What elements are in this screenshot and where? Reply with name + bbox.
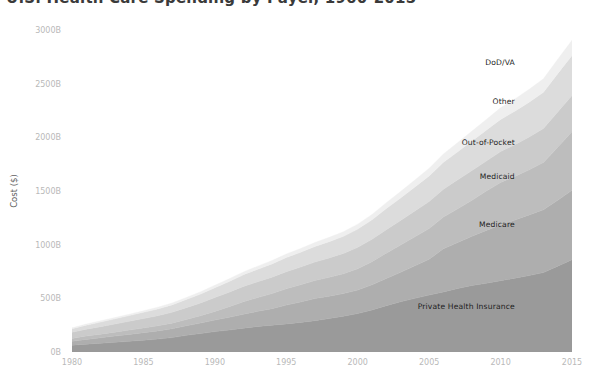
stacked-area-svg (72, 30, 572, 352)
x-axis-tick-label: 2015 (562, 358, 582, 367)
y-axis-tick-label: 500B (40, 294, 61, 303)
y-axis-tick-label: 2000B (35, 133, 61, 142)
x-axis-tick-label: 2010 (490, 358, 510, 367)
y-axis: Cost ($) 3000B2500B2000B1500B1000B500B0B (0, 0, 68, 390)
x-axis: 19801985199019952000200520102015 (0, 358, 599, 380)
chart-root: U.S. Health Care Spending by Payer, 1960… (0, 0, 599, 390)
x-axis-tick-label: 2005 (419, 358, 439, 367)
y-axis-tick-label: 3000B (35, 26, 61, 35)
y-axis-tick-label: 1500B (35, 187, 61, 196)
x-axis-tick-label: 2000 (348, 358, 368, 367)
plot-area (72, 30, 572, 352)
y-axis-tick-label: 2500B (35, 79, 61, 88)
y-axis-tick-label: 0B (50, 348, 61, 357)
y-axis-title: Cost ($) (9, 174, 19, 208)
x-axis-tick-label: 1995 (276, 358, 296, 367)
x-axis-tick-label: 1990 (205, 358, 225, 367)
x-axis-tick-label: 1985 (133, 358, 153, 367)
y-axis-tick-label: 1000B (35, 240, 61, 249)
x-axis-tick-label: 1980 (62, 358, 82, 367)
